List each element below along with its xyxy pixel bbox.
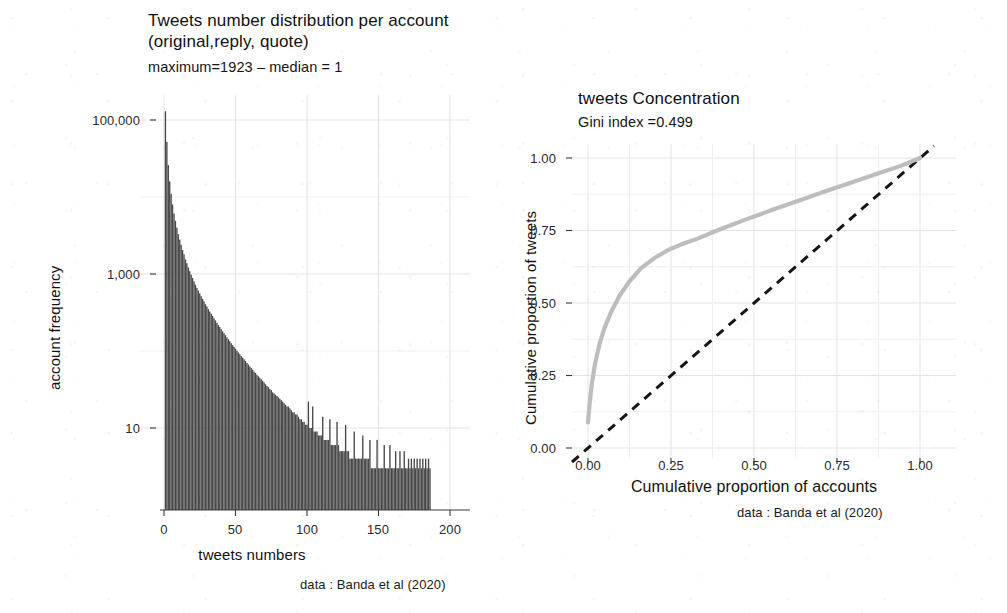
lorenz-y-tick-075: 0.75 [488, 223, 556, 238]
histogram-bar [203, 301, 204, 510]
histogram-bar [188, 267, 189, 510]
histogram-bar [213, 318, 214, 510]
histogram-bar [269, 389, 270, 510]
histogram-bar [362, 435, 363, 510]
histogram-bar [338, 445, 339, 510]
histogram-bar [272, 392, 273, 510]
histogram-bar [326, 440, 327, 510]
histogram-bar [398, 468, 399, 510]
histogram-bar [311, 428, 312, 510]
histogram-bar [368, 459, 369, 510]
histogram-bar [319, 435, 320, 510]
y-tick-100000: 100,000 [58, 113, 140, 128]
histogram-bar [166, 142, 167, 510]
histogram-plot [140, 95, 470, 515]
histogram-bar [302, 422, 303, 510]
histogram-bar [195, 285, 196, 510]
x-tick-50: 50 [228, 522, 243, 537]
lorenz-plot [562, 140, 962, 470]
histogram-bar [222, 331, 223, 510]
histogram-bar [341, 451, 342, 510]
lorenz-y-axis-title: Cumulative proportion of tweets [522, 211, 539, 425]
histogram-bar [286, 407, 287, 510]
lorenz-y-tick-0: 0.00 [488, 441, 556, 456]
histogram-bar [226, 337, 227, 510]
histogram-bar [308, 402, 309, 510]
histogram-bar [292, 412, 293, 510]
histogram-bar [192, 278, 193, 510]
histogram-bar [385, 468, 386, 510]
histogram-bar [394, 468, 395, 510]
histogram-bar [180, 245, 181, 510]
histogram-bar [389, 445, 390, 510]
histogram-bar [299, 419, 300, 510]
lorenz-x-tick-0: 0.00 [575, 458, 601, 473]
histogram-bar [275, 395, 276, 510]
histogram-bar [273, 394, 274, 510]
histogram-bar [259, 378, 260, 510]
histogram-bar [371, 468, 372, 510]
histogram-bar [425, 459, 426, 510]
histogram-bar [415, 468, 416, 510]
histogram-bar [406, 468, 407, 510]
histogram-bar [322, 417, 323, 510]
histogram-bar [242, 358, 243, 510]
histogram-bar [216, 323, 217, 510]
histogram-bar [379, 468, 380, 510]
histogram-bar [391, 468, 392, 510]
histogram-bar [375, 468, 376, 510]
histogram-bar [219, 327, 220, 510]
histogram-bar [378, 468, 379, 510]
lorenz-y-tick-025: 0.25 [488, 368, 556, 383]
histogram-bar [374, 468, 375, 510]
histogram-bar [298, 417, 299, 510]
histogram-bar [366, 459, 367, 510]
histogram-bar [165, 111, 166, 510]
histogram-bar [369, 440, 370, 510]
histogram-bar [276, 396, 277, 510]
histogram-bar [251, 368, 252, 510]
histogram-bar [205, 304, 206, 510]
histogram-bar [176, 228, 177, 510]
histogram-bar [252, 370, 253, 510]
lorenz-x-tick-025: 0.25 [658, 458, 684, 473]
x-tick-100: 100 [296, 522, 318, 537]
histogram-bar [421, 468, 422, 510]
histogram-bar [332, 445, 333, 510]
histogram-bar [208, 309, 209, 510]
histogram-bar [169, 181, 170, 510]
histogram-bar [279, 399, 280, 510]
histogram-bar [261, 379, 262, 510]
histogram-bar [352, 459, 353, 510]
histogram-bar [235, 349, 236, 510]
histogram-bar [215, 320, 216, 510]
histogram-bar [245, 361, 246, 510]
histogram-bar [321, 435, 322, 510]
histogram-bar [386, 468, 387, 510]
histogram-bar [212, 316, 213, 510]
histogram-bar [233, 347, 234, 510]
histogram-bar [221, 329, 222, 510]
histogram-bar [351, 459, 352, 510]
histogram-bar [243, 359, 244, 510]
histogram-bar [288, 407, 289, 510]
histogram-bar [229, 341, 230, 510]
lorenz-plot-background [562, 140, 962, 470]
histogram-bar [364, 459, 365, 510]
histogram-bar [266, 386, 267, 510]
histogram-bar [253, 372, 254, 510]
histogram-bar [285, 405, 286, 510]
histogram-bar [335, 445, 336, 510]
histogram-bar [344, 451, 345, 510]
x-tick-150: 150 [367, 522, 389, 537]
histogram-bar [263, 382, 264, 510]
histogram-bar [186, 263, 187, 510]
histogram-bar [382, 468, 383, 510]
histogram-bar [408, 459, 409, 510]
histogram-bar [262, 381, 263, 510]
histogram-bar [202, 299, 203, 510]
histogram-bar [236, 351, 237, 510]
histogram-bar [190, 275, 191, 510]
histogram-bar [346, 451, 347, 510]
histogram-bar [178, 234, 179, 510]
